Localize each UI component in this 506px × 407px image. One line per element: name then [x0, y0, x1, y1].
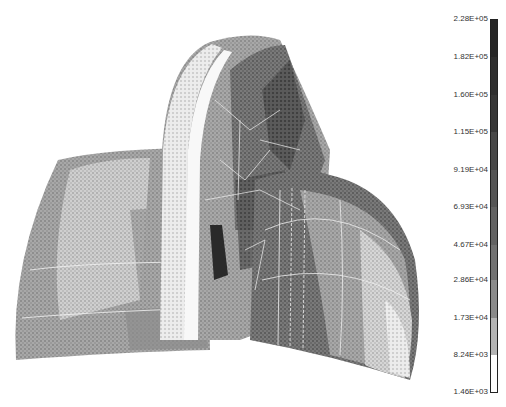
colorbar-legend: 2.28E+05 1.82E+05 1.60E+05 1.15E+05 9.19… — [440, 0, 506, 407]
colorbar-label: 2.28E+05 — [454, 14, 488, 24]
colorbar-label: 4.67E+04 — [454, 240, 488, 250]
colorbar-label: 6.93E+04 — [454, 202, 488, 212]
colorbar-label: 1.82E+05 — [454, 52, 488, 62]
colorbar-label: 1.60E+05 — [454, 90, 488, 100]
colorbar-label: 1.73E+04 — [454, 313, 488, 323]
colorbar-label: 1.15E+05 — [454, 127, 488, 137]
colorbar-label: 1.46E+03 — [454, 387, 488, 397]
colorbar-label: 2.86E+04 — [454, 275, 488, 285]
right-shell-panel — [250, 171, 419, 380]
contour-figure — [0, 0, 440, 407]
colorbar-frame — [490, 19, 498, 393]
colorbar-label: 9.19E+04 — [454, 165, 488, 175]
colorbar-label: 8.24E+03 — [454, 350, 488, 360]
